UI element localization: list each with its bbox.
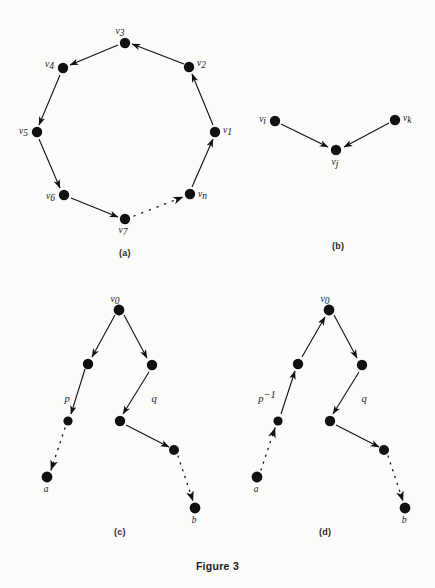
- vertex-c-p2: [63, 416, 72, 425]
- panel-d-labels: p−1 q a b v0: [254, 295, 407, 525]
- edge-vk-vj: [344, 123, 389, 147]
- panel-c-edges-left-path-p: [51, 315, 115, 470]
- vertex-vi: [270, 116, 280, 126]
- vertex-v7: [120, 214, 130, 224]
- label-c-a: a: [44, 484, 49, 494]
- panel-b-vertices: [270, 115, 400, 155]
- label-vk: vk: [403, 113, 412, 125]
- panel-d-edges-right-path-q: [333, 315, 403, 501]
- edge-c-m1-to-m2: [123, 372, 149, 414]
- label-v1: v1: [223, 125, 232, 137]
- panel-b-svg: vi vj vk: [245, 95, 425, 175]
- label-v6: v6: [46, 191, 55, 203]
- vertex-d-q1: [357, 360, 367, 370]
- panel-b-converging-edges: vi vj vk (b): [245, 95, 425, 175]
- panel-label-b: (b): [332, 241, 344, 251]
- vertex-vk: [390, 115, 400, 125]
- label-path-p-inverse: p−1: [257, 389, 276, 404]
- vertex-c-q2: [115, 416, 125, 426]
- edge-d-v0-to-m1: [334, 315, 357, 358]
- panel-a-directed-cycle: v3 v2 v1 vn v7 v6 v5 v4 (a): [8, 8, 248, 238]
- edge-v5-v6: [39, 139, 60, 188]
- vertex-v4: [58, 63, 68, 73]
- vertex-c-q3: [169, 445, 179, 455]
- vertex-d-q2: [325, 416, 335, 426]
- panel-d-svg: p−1 q a b v0: [235, 295, 435, 525]
- panel-c-two-paths: p q a b v0 (c): [30, 295, 230, 525]
- label-vj: vj: [332, 157, 339, 169]
- vertex-d-p2: [273, 416, 282, 425]
- vertex-v2: [184, 62, 194, 72]
- edge-v3-v4: [70, 45, 118, 65]
- label-d-a: a: [254, 484, 259, 494]
- vertex-vn: [185, 189, 195, 199]
- edge-vi-vj: [281, 124, 328, 147]
- panel-c-labels: p q a b v0: [44, 295, 197, 525]
- vertex-v6: [59, 190, 69, 200]
- panel-a-vertices: [32, 38, 220, 224]
- panel-b-edges: [281, 123, 389, 147]
- edge-c-v0-to-m1: [124, 315, 147, 358]
- panel-d-vertices: [252, 305, 411, 514]
- edge-c-m3-to-b-dotted: [178, 456, 193, 501]
- edge-v1-v2: [192, 74, 213, 125]
- vertex-c-b: [190, 503, 201, 514]
- label-path-q: q: [151, 393, 156, 404]
- label-path-q-d: q: [361, 393, 366, 404]
- label-d-b: b: [402, 515, 407, 525]
- edge-d-n1-to-v0: [302, 317, 325, 357]
- edge-d-m1-to-m2: [333, 372, 359, 414]
- label-v5: v5: [19, 126, 28, 138]
- panel-c-edges-right-path-q: [123, 315, 193, 501]
- edge-v2-v3: [132, 44, 184, 64]
- panel-a-vertex-labels: v3 v2 v1 vn v7 v6 v5 v4: [19, 26, 232, 237]
- panel-label-a: (a): [119, 248, 131, 258]
- edge-c-n1-to-n2: [71, 369, 85, 414]
- edge-vn-v1: [192, 139, 213, 187]
- panel-b-vertex-labels: vi vj vk: [259, 113, 412, 169]
- vertex-d-p1: [293, 359, 303, 369]
- figure-caption: Figure 3: [0, 560, 435, 572]
- edge-d-m2-to-m3: [336, 425, 379, 447]
- label-d-v0: v0: [321, 295, 330, 306]
- vertex-c-p1: [83, 359, 93, 369]
- vertex-c-a: [42, 472, 53, 483]
- label-c-b: b: [192, 515, 197, 525]
- edge-v6-v7: [71, 198, 118, 217]
- vertex-d-q3: [379, 445, 389, 455]
- vertex-d-a: [252, 472, 263, 483]
- vertex-c-q1: [147, 360, 157, 370]
- label-c-v0: v0: [111, 295, 120, 306]
- label-path-p: p: [63, 393, 69, 404]
- edge-v4-v5: [39, 75, 60, 125]
- label-vn: vn: [198, 189, 207, 201]
- edge-c-n2-to-a-dotted: [51, 428, 65, 470]
- panel-a-svg: v3 v2 v1 vn v7 v6 v5 v4: [8, 8, 248, 238]
- edge-v7-vn-dotted: [134, 197, 183, 216]
- edge-d-n2-to-n1: [281, 371, 295, 414]
- edge-d-m3-to-b-dotted: [388, 456, 403, 501]
- vertex-d-b: [400, 503, 411, 514]
- vertex-vj: [331, 145, 341, 155]
- panel-c-vertices: [42, 305, 201, 514]
- panel-label-c: (c): [114, 527, 126, 537]
- label-v4: v4: [45, 59, 54, 71]
- label-vi: vi: [259, 114, 266, 126]
- figure-page: v3 v2 v1 vn v7 v6 v5 v4 (a): [0, 0, 435, 588]
- edge-c-v0-to-n1: [92, 315, 115, 357]
- label-v7: v7: [119, 225, 129, 237]
- vertex-v1: [210, 127, 220, 137]
- label-v3: v3: [116, 26, 125, 38]
- panel-d-reversed-path: p−1 q a b v0 (d): [235, 295, 435, 525]
- edge-c-m2-to-m3: [126, 425, 169, 447]
- edge-d-a-to-n2-dotted: [261, 428, 275, 470]
- vertex-v3: [120, 38, 130, 48]
- panel-c-svg: p q a b v0: [30, 295, 230, 525]
- label-v2: v2: [197, 58, 206, 70]
- vertex-v5: [32, 127, 42, 137]
- panel-label-d: (d): [319, 527, 331, 537]
